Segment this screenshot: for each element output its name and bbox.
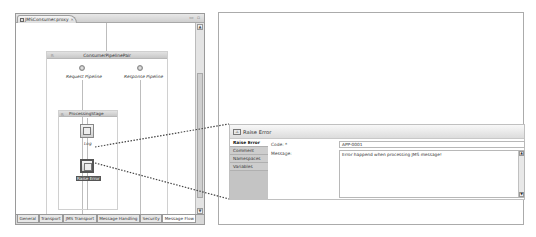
message-text: Error happend when processing JMS messag… xyxy=(342,152,442,157)
message-flow-canvas[interactable]: ⎘ ConsumerPipelinePair Request Pipeline … xyxy=(16,23,196,215)
message-scrollbar[interactable]: ▲ ▼ xyxy=(518,151,524,197)
properties-header: ⚠ Raise Error xyxy=(230,125,524,139)
log-action-label: Log xyxy=(84,141,92,146)
sidebar-item-raise-error[interactable]: Raise Error xyxy=(230,139,268,147)
stage-header[interactable]: ⎘ ProcessingStage xyxy=(59,111,117,117)
tab-message-flow[interactable]: Message Flow xyxy=(162,215,196,223)
sidebar-item-namespaces[interactable]: Namespaces xyxy=(230,155,268,163)
sidebar-item-variables[interactable]: Variables xyxy=(230,163,268,171)
proxy-file-icon xyxy=(20,18,24,22)
message-textarea[interactable]: Error happend when processing JMS messag… xyxy=(339,150,525,198)
connector-line xyxy=(106,23,107,51)
raise-error-action-label: Raise Error xyxy=(76,176,101,181)
editor-bottom-tabs: General Transport JMS Transport Message … xyxy=(16,214,204,224)
scroll-up-icon[interactable]: ▲ xyxy=(197,24,203,30)
scroll-up-icon[interactable]: ▲ xyxy=(519,151,524,156)
scroll-thumb[interactable] xyxy=(197,73,203,198)
tab-jms-transport[interactable]: JMS Transport xyxy=(63,215,97,223)
log-action-node[interactable] xyxy=(80,124,94,138)
processing-stage-node[interactable]: ⎘ ProcessingStage Log Raise Error xyxy=(58,110,118,210)
window-controls[interactable]: ▭ ▫ xyxy=(189,15,201,20)
log-icon xyxy=(83,127,91,135)
message-label: Message: xyxy=(271,151,292,156)
pipeline-pair-title: ConsumerPipelinePair xyxy=(83,53,131,58)
proxy-editor-window: JMSConsumer.proxy ✕ ▭ ▫ ⎘ ConsumerPipeli… xyxy=(15,13,205,225)
request-pipeline-icon[interactable] xyxy=(79,65,85,71)
pipeline-pair-icon: ⎘ xyxy=(49,53,55,58)
properties-sidebar: Raise Error Comment Namespaces Variables xyxy=(230,139,268,200)
properties-body: Code: * APP-0001 Message: Error happend … xyxy=(268,139,524,200)
properties-title: Raise Error xyxy=(243,129,271,135)
scroll-down-icon[interactable]: ▼ xyxy=(519,192,524,197)
editor-tab-label: JMSConsumer.proxy xyxy=(25,17,69,22)
raise-error-action-node[interactable] xyxy=(80,159,94,173)
stage-icon: ⎘ xyxy=(61,112,67,117)
raise-error-icon xyxy=(84,163,92,171)
code-field[interactable]: APP-0001 xyxy=(339,141,525,148)
tab-general[interactable]: General xyxy=(17,215,39,223)
request-pipeline-label[interactable]: Request Pipeline xyxy=(66,74,102,79)
raise-error-properties-panel: ⚠ Raise Error Raise Error Comment Namesp… xyxy=(229,124,525,200)
response-pipeline-label[interactable]: Response Pipeline xyxy=(124,74,163,79)
response-pipeline-line xyxy=(140,80,141,215)
response-pipeline-icon[interactable] xyxy=(137,65,143,71)
tab-transport[interactable]: Transport xyxy=(39,215,64,223)
pipeline-pair-header[interactable]: ⎘ ConsumerPipelinePair xyxy=(47,52,167,59)
vertical-scrollbar[interactable]: ▲ ▼ xyxy=(195,23,204,215)
editor-tab-bar: JMSConsumer.proxy ✕ ▭ ▫ xyxy=(16,14,204,23)
stage-title: ProcessingStage xyxy=(69,111,103,116)
tab-message-handling[interactable]: Message Handling xyxy=(97,215,140,223)
editor-tab-jmsconsumer[interactable]: JMSConsumer.proxy ✕ xyxy=(17,15,77,23)
code-label: Code: * xyxy=(271,142,287,147)
raise-error-icon: ⚠ xyxy=(233,129,241,135)
sidebar-item-comment[interactable]: Comment xyxy=(230,147,268,155)
close-icon[interactable]: ✕ xyxy=(71,17,74,22)
tab-security[interactable]: Security xyxy=(140,215,162,223)
